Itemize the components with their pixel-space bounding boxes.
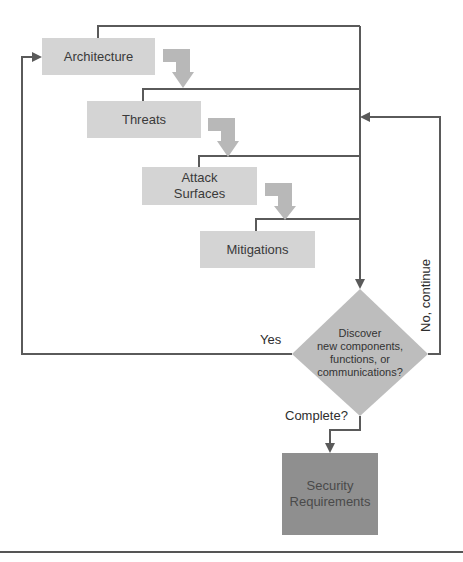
threats-box: Threats <box>87 101 201 138</box>
connectors-layer <box>0 0 463 562</box>
architecture-label: Architecture <box>64 49 133 65</box>
mitigations-box: Mitigations <box>200 231 315 268</box>
threats-label: Threats <box>122 112 166 128</box>
step-arrow-icon <box>208 118 239 157</box>
attack-surfaces-box: Attack Surfaces <box>142 167 257 205</box>
security-requirements-box: Security Requirements <box>282 453 378 535</box>
step-arrow-icon <box>163 49 194 88</box>
attack-surfaces-label-line1: Attack <box>181 170 217 186</box>
decision-text-line1: Discover <box>300 327 420 340</box>
threats-connector <box>143 89 360 101</box>
decision-text-line3: functions, or <box>300 353 420 366</box>
architecture-box: Architecture <box>42 38 155 75</box>
security-requirements-flowchart: Architecture Threats Attack Surfaces Mit… <box>0 0 463 562</box>
complete-edge-label: Complete? <box>285 408 348 423</box>
step-arrow-icon <box>265 183 296 220</box>
decision-text-line4: communications? <box>300 366 420 379</box>
mitigations-label: Mitigations <box>226 242 288 258</box>
architecture-connector <box>98 26 360 38</box>
attack-surfaces-connector <box>199 156 360 167</box>
no-continue-edge-label: No, continue <box>418 259 433 332</box>
security-requirements-label-line2: Requirements <box>290 494 371 510</box>
decision-text: Discover new components, functions, or c… <box>300 327 420 379</box>
security-requirements-label-line1: Security <box>307 478 354 494</box>
attack-surfaces-label-line2: Surfaces <box>174 186 225 202</box>
mitigations-connector <box>256 219 360 231</box>
decision-text-line2: new components, <box>300 340 420 353</box>
yes-edge-label: Yes <box>260 332 281 347</box>
